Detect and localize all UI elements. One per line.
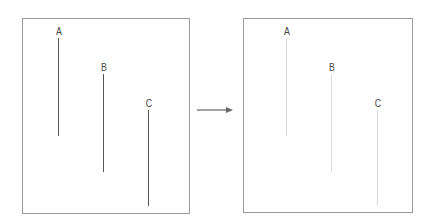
- transition-arrow-icon: [0, 0, 432, 224]
